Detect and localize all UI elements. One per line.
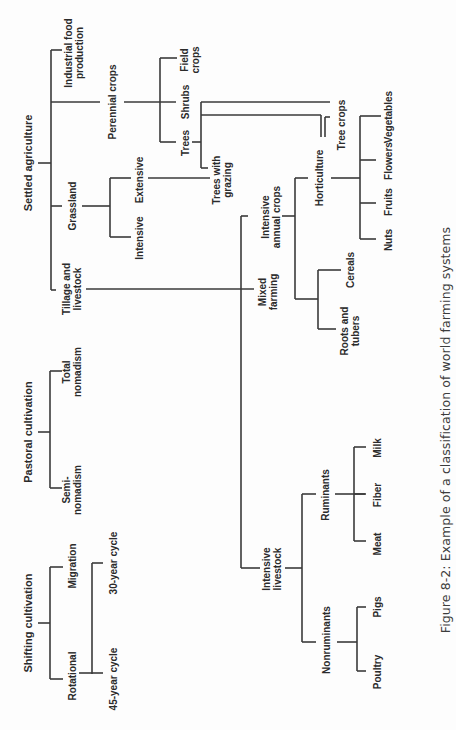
farming-systems-diagram: Settled agriculture Industrial food prod… [0, 0, 456, 730]
